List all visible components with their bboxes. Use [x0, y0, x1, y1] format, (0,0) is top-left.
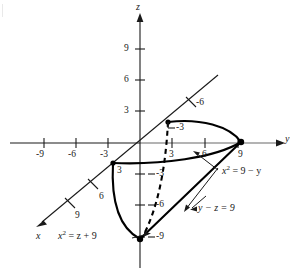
x-axis	[36, 75, 218, 227]
figure-canvas	[0, 0, 297, 275]
equation-parabola-xy-rhs: = 9 − y	[230, 165, 261, 176]
tick-label-x-neg-6: -6	[196, 98, 204, 108]
tick-label-y-pos-9: 9	[238, 150, 243, 160]
equation-parabola-xz-rhs: = z + 9	[66, 230, 97, 241]
tick-label-x-pos-9: 9	[75, 211, 80, 221]
tick-label-y-neg-3: -3	[100, 150, 108, 160]
equation-parabola-xz: x2 = z + 9	[58, 231, 97, 241]
curve-hidden-dashed	[142, 122, 168, 238]
y-axis-label: y	[285, 134, 289, 144]
tick-label-y-neg-6: -6	[68, 150, 76, 160]
equation-plane-yz: y − z = 9	[198, 203, 235, 213]
z-axis-label: z	[136, 2, 140, 12]
tick-label-y-neg-9: -9	[36, 150, 44, 160]
tick-label-z-neg-6: -6	[156, 200, 164, 210]
equation-parabola-xy: x2 = 9 − y	[222, 166, 261, 176]
point-y9-dot	[238, 139, 244, 145]
x-axis-ticks	[65, 97, 196, 208]
tick-label-y-pos-6: 6	[202, 150, 207, 160]
tick-label-y-pos-3: 3	[169, 150, 174, 160]
tick-label-z-neg-9: -9	[156, 232, 164, 242]
label-left-vertex: 3	[117, 166, 122, 176]
tick-label-x-pos-6: 6	[99, 192, 104, 202]
curve-plane-trace	[140, 142, 241, 239]
tick-label-z-pos-3: 3	[124, 106, 129, 116]
math-figure: y z x -9 -6 -3 3 6 9 9 6 3 -3 -6 -9 9 6 …	[0, 0, 297, 275]
point-left-vertex-dot	[110, 160, 115, 165]
label-upper-vertex: -3	[176, 123, 184, 133]
tick-label-z-pos-9: 9	[124, 44, 129, 54]
tick-label-z-pos-6: 6	[124, 75, 129, 85]
tick-label-z-neg-3: -3	[156, 169, 164, 179]
x-axis-label: x	[36, 231, 40, 241]
